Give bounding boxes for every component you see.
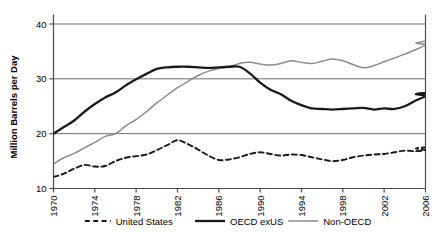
gridlines (54, 24, 426, 134)
x-tick-label: 1998 (337, 196, 348, 217)
data-series-layer (54, 41, 426, 177)
x-tick-label: 1990 (255, 196, 266, 217)
y-tick-label: 10 (36, 183, 47, 194)
series-line-non-oecd (54, 41, 426, 164)
x-tick-label: 2002 (379, 196, 390, 217)
chart-container: Million Barrels per Day 10203040 1970197… (0, 0, 442, 235)
legend-label-non-oecd: Non-OECD (323, 216, 371, 227)
legend-label-united-states: United States (116, 216, 173, 227)
series-line-united-states (54, 140, 426, 177)
y-tick-label: 40 (36, 19, 47, 30)
y-tick-label: 30 (36, 73, 47, 84)
x-tick-label: 1994 (296, 196, 307, 217)
series-line-oecd-exus (54, 66, 426, 133)
x-tick-label: 1986 (213, 196, 224, 217)
y-axis-title: Million Barrels per Day (8, 55, 19, 159)
x-tick-label: 1970 (48, 196, 59, 217)
legend-label-oecd-exus: OECD exUS (230, 216, 283, 227)
x-tick-label: 1974 (89, 196, 100, 217)
y-axis-ticks: 10203040 (36, 19, 54, 195)
x-tick-label: 1978 (131, 196, 142, 217)
oil-consumption-line-chart: Million Barrels per Day 10203040 1970197… (0, 0, 442, 235)
y-tick-label: 20 (36, 128, 47, 139)
plot-frame (54, 15, 426, 189)
x-tick-label: 2006 (420, 196, 431, 217)
chart-legend: United StatesOECD exUSNon-OECD (85, 216, 372, 227)
x-axis-ticks: 1970197419781982198619901994199820022006 (48, 189, 431, 217)
x-tick-label: 1982 (172, 196, 183, 217)
